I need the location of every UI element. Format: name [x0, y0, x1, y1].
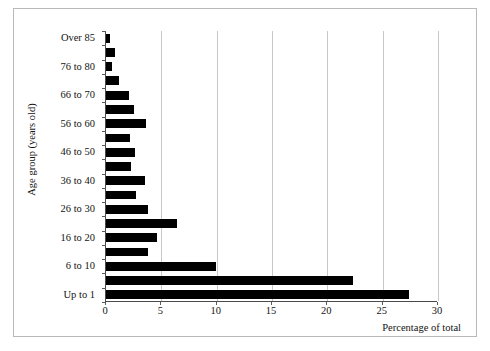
y-axis-tick-label: 6 to 10	[66, 260, 95, 271]
y-axis-tick-label: 26 to 30	[61, 203, 95, 214]
y-axis-tick-label: 66 to 70	[61, 89, 95, 100]
bar-row	[106, 262, 437, 271]
bar	[106, 290, 409, 299]
x-axis-tick-label: 15	[266, 305, 277, 317]
bar-row	[106, 219, 437, 228]
x-axis-title: Percentage of total	[14, 322, 477, 333]
bar-row	[106, 76, 437, 85]
bar-series	[106, 31, 437, 301]
bar-row	[106, 148, 437, 157]
y-axis-tick	[102, 145, 106, 146]
y-axis-tick-label: 56 to 60	[61, 118, 95, 129]
y-axis-tick	[102, 60, 106, 61]
y-axis-tick	[102, 288, 106, 289]
bar-row	[106, 91, 437, 100]
y-axis-tick-label: 46 to 50	[61, 146, 95, 157]
y-axis-tick	[102, 259, 106, 260]
y-axis-tick	[102, 31, 106, 32]
y-axis-tick	[102, 174, 106, 175]
bar-row	[106, 162, 437, 171]
y-axis-tick	[102, 231, 106, 232]
bar	[106, 262, 216, 271]
y-axis-tick-label: 16 to 20	[61, 232, 95, 243]
bar-row	[106, 105, 437, 114]
y-axis-tick	[102, 88, 106, 89]
bar-row	[106, 119, 437, 128]
figure-frame: Age group (years old) Up to 16 to 1016 t…	[13, 8, 477, 337]
y-axis-tick-label: Up to 1	[64, 289, 96, 300]
y-axis-tick	[102, 202, 106, 203]
y-axis-tick-labels: Up to 16 to 1016 to 2026 to 3036 to 4046…	[14, 31, 102, 302]
y-axis-tick	[102, 117, 106, 118]
x-axis-tick-labels: 051015202530	[105, 305, 437, 319]
bar-row	[106, 205, 437, 214]
bar-row	[106, 290, 437, 299]
plot-area	[105, 31, 437, 302]
x-axis-tick-label: 10	[210, 305, 221, 317]
x-axis-tick-label: 5	[158, 305, 163, 317]
y-axis-tick-label: 36 to 40	[61, 175, 95, 186]
bar-row	[106, 134, 437, 143]
y-axis-tick-label: Over 85	[61, 32, 95, 43]
bar-row	[106, 62, 437, 71]
y-axis-tick	[102, 102, 106, 103]
y-axis-tick	[102, 131, 106, 132]
y-axis-tick	[102, 45, 106, 46]
y-axis-tick	[102, 245, 106, 246]
gridline	[438, 31, 439, 301]
x-axis-tick-label: 25	[376, 305, 387, 317]
chart-screenshot: Age group (years old) Up to 16 to 1016 t…	[0, 0, 490, 351]
bar-row	[106, 176, 437, 185]
bar	[106, 205, 148, 214]
bar	[106, 119, 146, 128]
bar	[106, 219, 177, 228]
bar	[106, 276, 353, 285]
x-axis-tick-label: 30	[432, 305, 443, 317]
x-axis-tick-label: 0	[102, 305, 107, 317]
bar-row	[106, 48, 437, 57]
bar-row	[106, 276, 437, 285]
bar	[106, 248, 148, 257]
y-axis-tick	[102, 216, 106, 217]
y-axis-ticks	[106, 31, 111, 301]
bar-row	[106, 248, 437, 257]
bar-row	[106, 191, 437, 200]
bar-row	[106, 34, 437, 43]
y-axis-tick	[102, 188, 106, 189]
y-axis-tick-label: 76 to 80	[61, 61, 95, 72]
y-axis-tick	[102, 159, 106, 160]
y-axis-tick	[102, 273, 106, 274]
bar	[106, 233, 157, 242]
y-axis-tick	[102, 74, 106, 75]
bar-row	[106, 233, 437, 242]
bar	[106, 176, 145, 185]
x-axis-tick-label: 20	[321, 305, 332, 317]
